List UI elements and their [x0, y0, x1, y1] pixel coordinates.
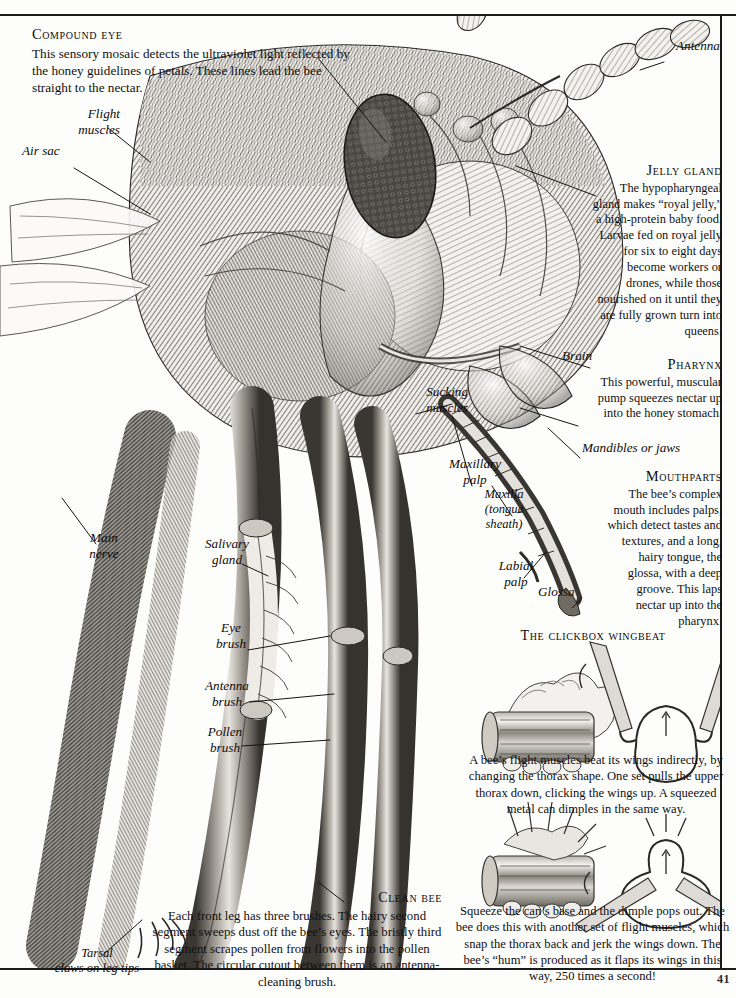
label-antenna: Antenna	[676, 38, 720, 54]
caption-heading-clean-bee: Clean bee	[152, 890, 442, 906]
label-eye-brush: Eye brush	[208, 620, 254, 652]
caption-heading-mouthparts: Mouthparts	[606, 468, 722, 485]
caption-body-compound-eye: This sensory mosaic detects the ultravio…	[32, 45, 362, 96]
caption-heading-compound-eye: Compound eye	[32, 26, 362, 43]
label-antenna-brush: Antenna brush	[196, 678, 258, 710]
label-flight-muscles: Flight muscles	[48, 106, 120, 138]
label-mandibles: Mandibles or jaws	[582, 440, 680, 456]
caption-heading-pharynx: Pharynx	[580, 356, 722, 373]
label-sucking-muscles: Sucking muscles	[406, 384, 468, 416]
caption-clickbox-heading-block: The clickbox wingbeat	[462, 628, 724, 646]
caption-compound-eye: Compound eye This sensory mosaic detects…	[32, 26, 362, 96]
caption-mouthparts: Mouthparts The bee’s complex mouth inclu…	[606, 468, 722, 630]
label-pollen-brush: Pollen brush	[200, 724, 250, 756]
caption-body-pharynx: This powerful, muscular pump squeezes ne…	[580, 375, 722, 423]
label-air-sac: Air sac	[22, 143, 60, 159]
label-maxillary-palp: Maxillary palp	[446, 456, 504, 488]
caption-jelly-gland: Jelly gland The hypopharyngeal gland mak…	[592, 162, 722, 339]
page-rule-top	[0, 14, 736, 16]
label-labial-palp: Labial palp	[494, 558, 538, 590]
caption-body-clickbox-2: Squeeze the can’s base and the dimple po…	[455, 903, 730, 985]
label-salivary-gland: Salivary gland	[196, 536, 258, 568]
label-glossa: Glossa	[538, 584, 575, 600]
label-tarsal-claws: Tarsal claws on leg tips	[52, 946, 142, 976]
caption-heading-jelly-gland: Jelly gland	[592, 162, 722, 179]
label-main-nerve: Main nerve	[78, 530, 130, 562]
caption-body-clickbox-1: A bee’s flight muscles beat its wings in…	[462, 752, 730, 817]
caption-body-jelly-gland: The hypopharyngeal gland makes “royal je…	[592, 181, 722, 340]
book-page: 41 Compound eye This sensory mosaic dete…	[0, 0, 736, 998]
caption-body-mouthparts: The bee’s complex mouth includes palps, …	[606, 487, 722, 630]
caption-clean-bee: Clean bee Each front leg has three brush…	[152, 890, 442, 990]
caption-pharynx: Pharynx This powerful, muscular pump squ…	[580, 356, 722, 422]
label-maxilla: Maxilla (tongue sheath)	[476, 487, 532, 532]
caption-body-clean-bee: Each front leg has three brushes. The ha…	[152, 908, 442, 990]
label-brain: Brain	[562, 348, 592, 364]
caption-heading-clickbox: The clickbox wingbeat	[462, 628, 724, 644]
